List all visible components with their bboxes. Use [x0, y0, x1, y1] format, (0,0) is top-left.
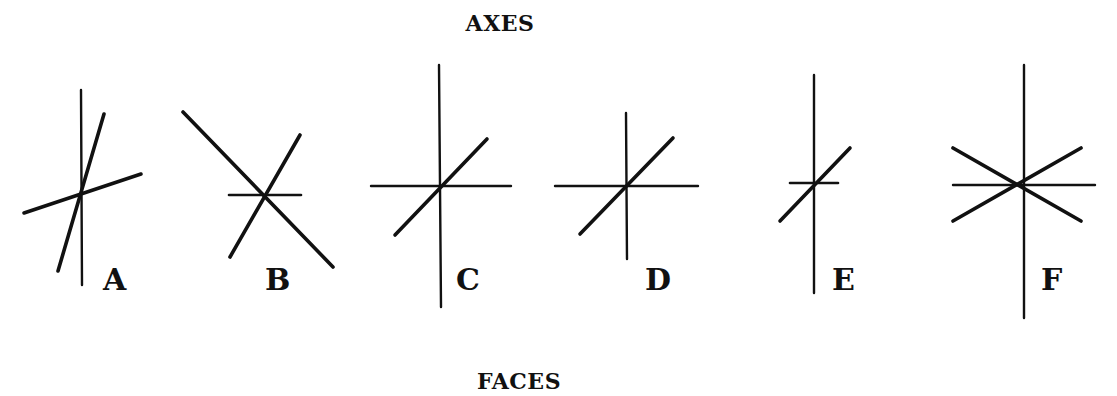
- axis-figure-d: D: [555, 113, 698, 297]
- figure-label: C: [456, 262, 480, 297]
- axes-diagram: ABCDEF: [0, 0, 1117, 396]
- axis-line: [183, 112, 333, 267]
- figure-label: A: [102, 262, 127, 297]
- axis-figure-b: B: [183, 112, 333, 297]
- axis-figure-e: E: [780, 75, 855, 297]
- diagram-footer-title: FACES: [477, 368, 561, 394]
- axis-figure-f: F: [953, 65, 1095, 318]
- axis-figure-c: C: [371, 65, 511, 307]
- figure-label: E: [832, 262, 855, 297]
- figure-label: B: [265, 262, 290, 297]
- figure-label: D: [645, 262, 671, 297]
- figure-label: F: [1041, 262, 1062, 297]
- axis-figure-a: A: [24, 90, 141, 297]
